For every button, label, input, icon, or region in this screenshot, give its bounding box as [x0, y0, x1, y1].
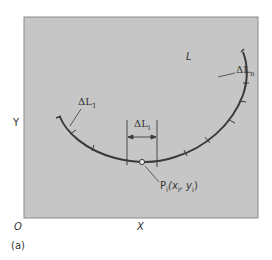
- delta-ln-base: ΔL: [236, 64, 250, 75]
- origin-label: O: [14, 222, 22, 232]
- delta-l1-base: ΔL: [78, 96, 92, 107]
- y-axis-label: Y: [13, 118, 19, 128]
- point-pi-close: ): [194, 180, 198, 191]
- delta-ln-sub: n: [250, 70, 255, 78]
- point-pi-marker: [139, 159, 144, 164]
- x-axis-label: X: [137, 222, 144, 232]
- curve-segmentation-figure: ΔL1 ΔLi ΔLn L Pi(xi, yi) Y O X (a): [0, 0, 272, 260]
- point-pi-coords-x: (x: [168, 180, 178, 191]
- delta-li-sub: i: [148, 124, 150, 132]
- point-pi-label: Pi(xi, yi): [160, 181, 198, 194]
- delta-l1-sub: 1: [92, 102, 96, 110]
- point-pi-coords-y: , y: [180, 180, 192, 191]
- curve-name-label: L: [186, 52, 192, 62]
- delta-l1-label: ΔL1: [78, 97, 96, 110]
- delta-li-label: ΔLi: [134, 119, 150, 132]
- delta-ln-label: ΔLn: [236, 65, 254, 78]
- delta-li-base: ΔL: [134, 118, 148, 129]
- figure-caption: (a): [11, 241, 25, 251]
